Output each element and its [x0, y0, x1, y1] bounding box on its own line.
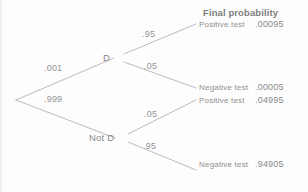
branch-probability-positive-given-d: .95 — [142, 30, 155, 39]
branch-d-to-negative — [124, 62, 196, 88]
final-probability-value-4: .94905 — [255, 160, 284, 169]
branch-d-to-positive — [124, 24, 196, 54]
branch-probability-not-d: .999 — [44, 95, 62, 104]
probability-tree-diagram: Final probability D Not D .001 .999 .95 … — [0, 0, 308, 192]
outcome-label-negative-test-1: Negative test — [199, 84, 248, 92]
outcome-label-negative-test-2: Negative test — [199, 161, 248, 169]
branch-probability-positive-given-not-d: .05 — [144, 110, 157, 119]
branch-probability-negative-given-d: .05 — [144, 62, 157, 71]
final-probability-value-3: .04995 — [255, 96, 284, 105]
outcome-label-positive-test-1: Positive test — [199, 21, 245, 29]
node-label-d: D — [103, 53, 110, 63]
node-label-not-d: Not D — [89, 133, 114, 143]
branch-not-d-to-negative — [128, 142, 196, 170]
branch-probability-negative-given-not-d: .95 — [143, 142, 156, 151]
final-probability-value-1: .00095 — [255, 20, 284, 29]
outcome-label-positive-test-2: Positive test — [199, 97, 245, 105]
branch-root-to-d — [16, 58, 114, 100]
branch-not-d-to-positive — [128, 100, 196, 134]
branch-probability-d: .001 — [44, 64, 62, 73]
final-probability-header: Final probability — [203, 8, 278, 18]
final-probability-value-2: .00005 — [255, 83, 284, 92]
